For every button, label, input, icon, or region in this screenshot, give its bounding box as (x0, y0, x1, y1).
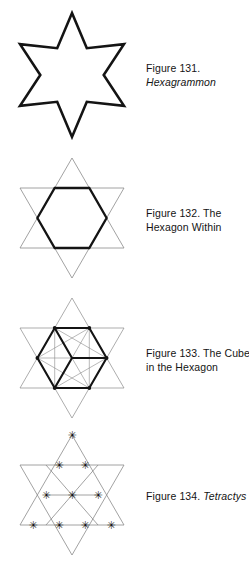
inner-hexagon-bold (37, 188, 106, 248)
figure-134-number: Figure 134. (146, 490, 200, 502)
spoke-to-top-left-vertex (55, 328, 72, 358)
triangle-down-light (20, 328, 124, 418)
figure-133-caption: Figure 133. The Cube in the Hexagon (140, 346, 249, 375)
figure-block-133: Figure 133. The Cube in the Hexagon (0, 290, 249, 430)
triangle-down-light (20, 188, 124, 278)
figure-plate-page: Figure 131. Hexagrammon Figure 132. The … (0, 0, 249, 563)
figure-133-caption-line-1: Figure 133. The Cube (146, 346, 249, 361)
figure-131-artwork (0, 0, 140, 150)
figure-132-caption: Figure 132. The Hexagon Within (140, 206, 249, 235)
figure-131-caption: Figure 131. Hexagrammon (140, 61, 249, 90)
figure-131-caption-line-1: Figure 131. (146, 61, 249, 76)
figure-134-artwork: ✳ ✳ ✳ ✳ ✳ ✳ ✳ ✳ ✳ ✳ (0, 430, 140, 563)
figure-134-caption-line-1: Figure 134. Tetractys (146, 489, 249, 504)
figure-134-title: Tetractys (203, 490, 246, 502)
spoke-to-bottom-left-vertex (55, 358, 72, 388)
figure-block-134: ✳ ✳ ✳ ✳ ✳ ✳ ✳ ✳ ✳ ✳ Figure 134. Tetracty… (0, 430, 249, 563)
triangular-lattice-light (46, 435, 98, 525)
triangle-up-light (20, 158, 124, 248)
figure-131-caption-line-2: Hexagrammon (146, 75, 249, 90)
figure-132-caption-line-2: Hexagon Within (146, 220, 249, 235)
marker-row3-1: ✳ (41, 489, 50, 502)
figure-133-caption-line-2: in the Hexagon (146, 360, 249, 375)
figure-132-artwork (0, 150, 140, 290)
figure-132-caption-line-1: Figure 132. The (146, 206, 249, 221)
hexagram-inner-hexagon-svg (0, 150, 140, 290)
marker-row3-2: ✳ (67, 489, 76, 502)
marker-row3-3: ✳ (93, 489, 102, 502)
tetractys-markers: ✳ ✳ ✳ ✳ ✳ ✳ ✳ ✳ ✳ ✳ (28, 430, 115, 532)
figure-133-artwork (0, 290, 140, 430)
marker-row4-2: ✳ (54, 519, 63, 532)
tetractys-lattice-svg: ✳ ✳ ✳ ✳ ✳ ✳ ✳ ✳ ✳ ✳ (0, 430, 140, 563)
triangle-up-light (20, 298, 124, 388)
marker-row4-1: ✳ (28, 519, 37, 532)
marker-row4-4: ✳ (106, 519, 115, 532)
figure-block-132: Figure 132. The Hexagon Within (0, 150, 249, 290)
hexagram-outline-path (20, 13, 124, 137)
marker-row2-2: ✳ (80, 459, 89, 472)
cube-in-hexagon-svg (0, 290, 140, 430)
triangle-down-light (20, 465, 124, 555)
marker-row1-1: ✳ (67, 430, 76, 442)
figure-block-131: Figure 131. Hexagrammon (0, 0, 249, 150)
marker-row2-1: ✳ (54, 459, 63, 472)
hexagram-outline-svg (0, 0, 140, 150)
figure-134-caption: Figure 134. Tetractys (140, 489, 249, 504)
triangle-up-light (20, 435, 124, 525)
marker-row4-3: ✳ (80, 519, 89, 532)
